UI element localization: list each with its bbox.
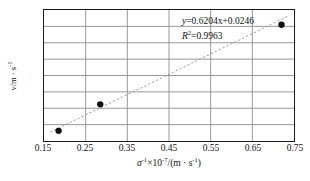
r-squared-annotation: R2=0.9963 — [182, 32, 223, 42]
x-axis-title-times: ×10 — [147, 158, 162, 168]
chart-figure: 0.100.150.200.250.300.350.400.450.50 0.1… — [0, 0, 310, 181]
y-axis-title-host: v/m · s-1 — [14, 9, 34, 142]
y-axis-title-text: v/m · s — [8, 66, 18, 90]
x-axis-tick-label: 0.35 — [119, 144, 136, 154]
r-squared-value: =0.9963 — [191, 31, 222, 41]
x-axis-title: σ-1×10-7/(m · s-1) — [43, 158, 295, 168]
x-axis-tick-label: 0.55 — [203, 144, 220, 154]
regression-equation-annotation: y=0.6204x+0.0246 — [182, 17, 254, 27]
x-axis-tick-label: 0.75 — [287, 144, 304, 154]
x-axis-tick-label: 0.25 — [77, 144, 94, 154]
x-axis-tick-label: 0.15 — [35, 144, 52, 154]
y-axis-title: v/m · s-1 — [8, 61, 18, 90]
x-axis-tick-label: 0.45 — [161, 144, 178, 154]
x-axis-tick-label: 0.65 — [245, 144, 262, 154]
x-axis-title-tail: /(m · s — [168, 158, 193, 168]
y-axis-title-sup: -1 — [6, 61, 13, 67]
x-axis-title-close: ) — [198, 158, 201, 168]
equation-body: =0.6204x+0.0246 — [186, 16, 254, 26]
y-axis-tick-labels: 0.100.150.200.250.300.350.400.450.50 — [0, 0, 310, 181]
